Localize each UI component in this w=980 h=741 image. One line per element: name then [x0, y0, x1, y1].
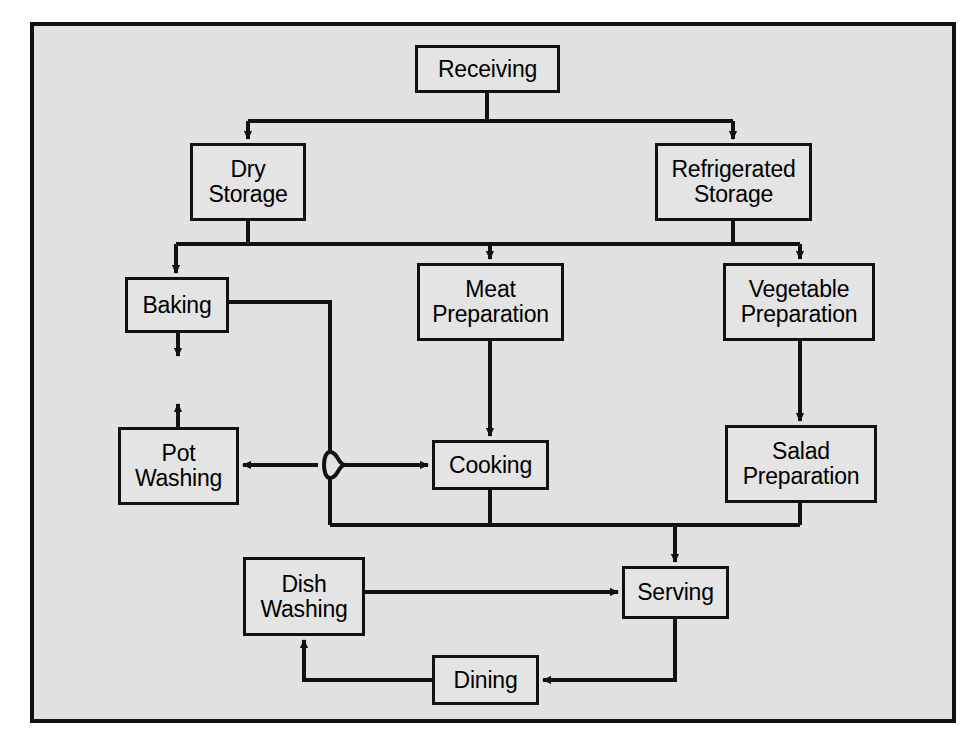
node-cooking-label: Cooking — [435, 453, 546, 478]
node-dry-storage-label: Dry Storage — [193, 157, 303, 206]
node-salad-preparation-label: Salad Preparation — [728, 439, 874, 488]
node-salad-preparation[interactable]: Salad Preparation — [725, 425, 877, 503]
node-receiving-label: Receiving — [418, 57, 557, 82]
node-dining[interactable]: Dining — [432, 655, 539, 705]
node-dry-storage[interactable]: Dry Storage — [190, 143, 306, 221]
node-meat-preparation[interactable]: Meat Preparation — [417, 263, 564, 341]
node-receiving[interactable]: Receiving — [415, 45, 560, 93]
node-refrigerated-storage[interactable]: Refrigerated Storage — [655, 143, 812, 221]
node-baking[interactable]: Baking — [125, 277, 229, 333]
node-pot-washing-label: Pot Washing — [121, 441, 236, 490]
node-baking-label: Baking — [128, 293, 226, 318]
node-dish-washing[interactable]: Dish Washing — [243, 557, 365, 636]
diagram-frame — [30, 22, 956, 723]
diagram-canvas: Receiving Dry Storage Refrigerated Stora… — [0, 0, 980, 741]
node-meat-preparation-label: Meat Preparation — [420, 277, 561, 326]
node-vegetable-preparation[interactable]: Vegetable Preparation — [723, 263, 875, 341]
node-serving-label: Serving — [625, 580, 726, 605]
node-dining-label: Dining — [435, 668, 536, 693]
node-vegetable-preparation-label: Vegetable Preparation — [726, 277, 872, 326]
node-serving[interactable]: Serving — [622, 566, 729, 619]
node-pot-washing[interactable]: Pot Washing — [118, 427, 239, 505]
node-dish-washing-label: Dish Washing — [246, 572, 362, 621]
node-cooking[interactable]: Cooking — [432, 440, 549, 490]
node-refrigerated-storage-label: Refrigerated Storage — [658, 157, 809, 206]
